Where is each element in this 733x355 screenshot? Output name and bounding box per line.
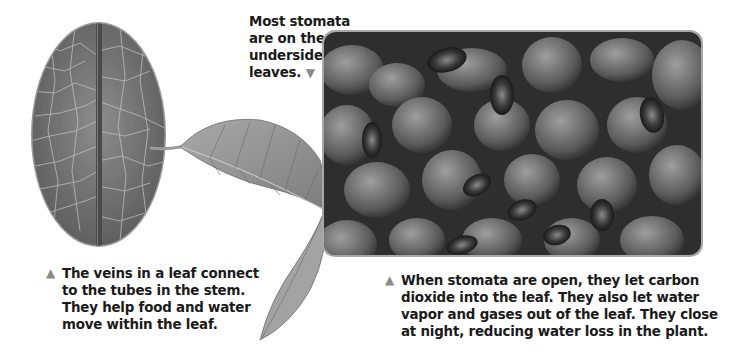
leaf-vein-closeup-image: [30, 21, 167, 248]
stomata-micrograph-image: [322, 30, 703, 257]
stomata-caption: ▲ When stomata are open, they let carbon…: [385, 272, 730, 340]
caption-line: When stomata are open, they let carbon: [401, 272, 730, 289]
triangle-down-icon: ▼: [306, 66, 315, 80]
callout-line: Most stomata: [249, 13, 359, 30]
caption-line: The veins in a leaf connect: [62, 265, 316, 282]
triangle-up-icon: ▲: [46, 265, 55, 282]
caption-line: They help food and water: [62, 299, 316, 316]
caption-line: to the tubes in the stem.: [62, 282, 316, 299]
veins-caption: ▲ The veins in a leaf connect to the tub…: [46, 265, 316, 333]
caption-line: dioxide into the leaf. They also let wat…: [401, 289, 730, 306]
caption-line: at night, reducing water loss in the pla…: [401, 323, 730, 340]
triangle-up-icon: ▲: [385, 272, 394, 289]
caption-line: move within the leaf.: [62, 316, 316, 333]
caption-line: vapor and gases out of the leaf. They cl…: [401, 306, 730, 323]
